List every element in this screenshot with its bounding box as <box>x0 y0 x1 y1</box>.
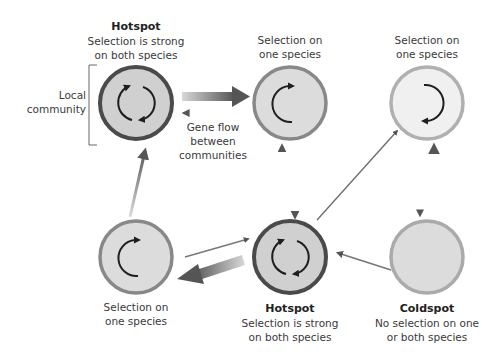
community-desc-line1: Selection on <box>86 300 186 314</box>
community-bottom-middle-hotspot <box>254 221 326 293</box>
flow-arrow-bl-to-bm <box>185 239 248 257</box>
local-community-bracket <box>89 65 97 145</box>
label-top-right: Selection on one species <box>377 33 477 61</box>
community-desc-line1: No selection on one <box>372 316 482 330</box>
label-top-left: Hotspot Selection is strong on both spec… <box>86 20 186 62</box>
label-gene-flow: Gene flow between communities <box>178 120 248 162</box>
community-desc-line2: on both species <box>240 330 340 344</box>
label-bottom-left: Selection on one species <box>86 300 186 328</box>
community-desc-line2: on both species <box>86 48 186 62</box>
community-title: Coldspot <box>372 302 482 316</box>
community-desc-line2: or both species <box>372 330 482 344</box>
flow-arrow-bl-to-tl <box>130 151 145 217</box>
community-desc-line2: one species <box>86 314 186 328</box>
label-top-middle: Selection on one species <box>240 33 340 61</box>
community-title: Hotspot <box>240 302 340 316</box>
flow-arrow-br-to-bm <box>338 253 391 270</box>
community-top-right <box>391 67 463 139</box>
community-top-left-hotspot <box>100 67 172 139</box>
community-desc-line1: Selection on <box>240 33 340 47</box>
label-local-community: Local community <box>22 88 86 116</box>
flow-arrow-bm-to-bl <box>177 255 245 284</box>
flow-arrow-tl-to-tm <box>182 86 250 107</box>
label-bottom-middle: Hotspot Selection is strong on both spec… <box>240 302 340 344</box>
flow-arrow-bm-to-tr <box>317 131 397 220</box>
community-desc-line1: Selection is strong <box>86 34 186 48</box>
gene-flow-line2: between <box>178 134 248 148</box>
local-line2: community <box>22 102 86 116</box>
gene-flow-line1: Gene flow <box>178 120 248 134</box>
community-top-middle <box>254 67 326 139</box>
community-desc-line1: Selection is strong <box>240 316 340 330</box>
gene-flow-line3: communities <box>178 148 248 162</box>
community-bottom-right-coldspot <box>391 221 463 293</box>
community-bottom-left <box>100 221 172 293</box>
label-bottom-right: Coldspot No selection on one or both spe… <box>372 302 482 344</box>
local-line1: Local <box>22 88 86 102</box>
community-desc-line2: one species <box>377 47 477 61</box>
community-title: Hotspot <box>86 20 186 34</box>
community-desc-line1: Selection on <box>377 33 477 47</box>
community-desc-line2: one species <box>240 47 340 61</box>
